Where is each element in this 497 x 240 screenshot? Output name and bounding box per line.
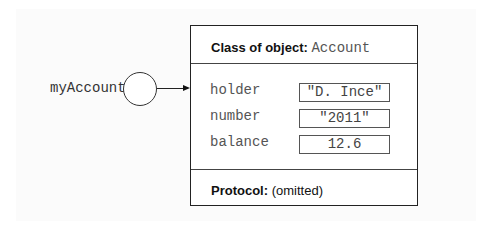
field-name-holder: holder xyxy=(210,82,260,98)
field-value-holder: "D. Ince" xyxy=(299,83,390,102)
field-value-number: "2011" xyxy=(299,109,390,128)
protocol-label: Protocol: xyxy=(211,183,268,198)
arrow-head-icon xyxy=(183,85,190,91)
class-label: Class of object: xyxy=(211,40,308,55)
object-box: Class of object: Account holder "D. Ince… xyxy=(190,25,418,206)
field-value-balance: 12.6 xyxy=(299,135,390,154)
object-header: Class of object: Account xyxy=(191,26,417,64)
class-name: Account xyxy=(311,40,370,56)
field-name-balance: balance xyxy=(210,134,269,150)
reference-arrow-line xyxy=(157,88,184,89)
reference-circle xyxy=(123,72,157,106)
protocol-section: Protocol: (omitted) xyxy=(191,169,417,205)
reference-variable-label: myAccount xyxy=(50,80,126,96)
protocol-text: Protocol: (omitted) xyxy=(211,183,323,198)
class-heading: Class of object: Account xyxy=(211,40,370,56)
protocol-value: (omitted) xyxy=(272,183,323,198)
field-name-number: number xyxy=(210,108,260,124)
